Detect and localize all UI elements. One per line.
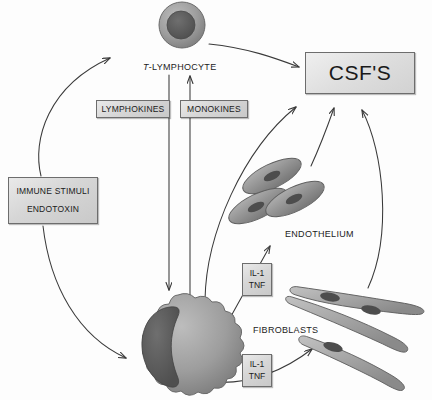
tnf-top-label: TNF (249, 280, 266, 291)
cell-macrophage (142, 294, 244, 396)
monokines-box: MONOKINES (180, 100, 248, 118)
cytokine-network-diagram: CSF'S LYMPHOKINES MONOKINES IMMUNE STIMU… (0, 0, 432, 400)
arrow-stimuli-to-macrophage (43, 226, 126, 358)
il1-tnf-fibroblast-box: IL-1 TNF (242, 354, 272, 387)
lymphokines-label: LYMPHOKINES (102, 104, 165, 115)
csf-label: CSF'S (329, 60, 392, 86)
t-lymphocyte-rest: -LYMPHOCYTE (149, 62, 217, 72)
cell-t-lymphocyte (159, 2, 205, 48)
monokines-label: MONOKINES (187, 104, 241, 115)
endotoxin-label: ENDOTOXIN (27, 204, 79, 215)
t-lymphocyte-label: T-LYMPHOCYTE (143, 62, 216, 72)
il1-bottom-label: IL-1 (250, 359, 265, 370)
lymphokines-box: LYMPHOKINES (96, 100, 170, 118)
csf-box: CSF'S (305, 52, 415, 94)
cell-endothelium (224, 151, 329, 231)
immune-stimuli-label: IMMUNE STIMULI (16, 186, 89, 197)
il1-tnf-endothelium-box: IL-1 TNF (242, 263, 272, 296)
arrow-fibroblasts-to-csf (362, 110, 383, 288)
arrow-endothelium-to-csf (311, 108, 334, 166)
il1-top-label: IL-1 (250, 268, 265, 279)
endothelium-label: ENDOTHELIUM (285, 229, 354, 239)
arrow-lymphocyte-to-csf (209, 44, 299, 67)
immune-stimuli-box: IMMUNE STIMULI ENDOTOXIN (8, 177, 98, 224)
tnf-bottom-label: TNF (249, 371, 266, 382)
fibroblasts-label: FIBROBLASTS (253, 325, 318, 335)
